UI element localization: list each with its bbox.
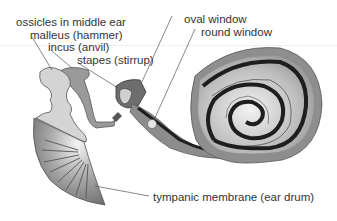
label-round-window: round window [201,26,272,39]
label-oval-window: oval window [184,13,247,26]
label-stapes: stapes (stirrup) [77,54,154,67]
label-ossicles: ossicles in middle ear [16,16,126,29]
round-window-shape [148,120,157,129]
label-incus: incus (anvil) [48,41,109,54]
ear-diagram: ossicles in middle ear malleus (hammer) … [0,0,337,221]
label-tympanic-membrane: tympanic membrane (ear drum) [153,191,314,204]
